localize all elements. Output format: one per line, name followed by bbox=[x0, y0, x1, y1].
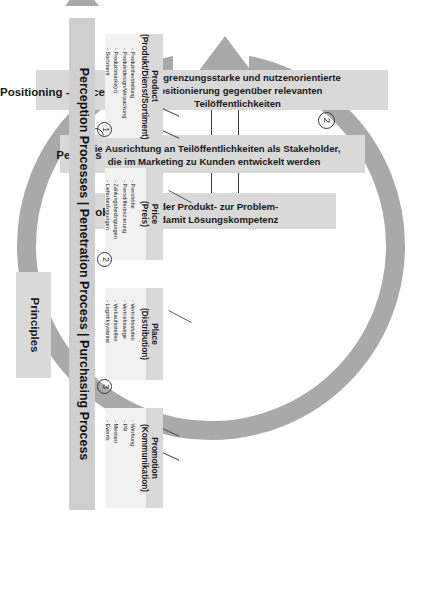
diagram-canvas: 1 2 3 Problem Von der Produkt- zur Probl… bbox=[0, 0, 425, 591]
list-item: Preishöhe bbox=[129, 180, 137, 239]
list-item: Events bbox=[103, 420, 111, 446]
mix-title-place-main: Place bbox=[150, 323, 160, 345]
mix-list-place: Vertriebsstufen Vertriebswege Verkaufsst… bbox=[103, 300, 137, 343]
mix-list-product: Produktherstellung Produktdesign/Verpack… bbox=[103, 48, 137, 118]
mix-title-place-sub: (Distribution) bbox=[140, 308, 150, 360]
stage-body-persons: Die Ausrichtung an Teilöffentlichkeiten … bbox=[87, 143, 342, 169]
list-item: Werbung bbox=[129, 420, 137, 446]
list-item: Vertriebsstufen bbox=[129, 300, 137, 343]
list-item: PR bbox=[120, 420, 128, 446]
mix-title-price: Price (Preis) bbox=[139, 168, 159, 260]
list-item: Produktherstellung bbox=[129, 48, 137, 118]
mix-title-promotion: Promotion (Kommunikation) bbox=[139, 408, 159, 508]
mix-title-product: Product (Produkt/Dienst/Sortiment) bbox=[139, 34, 159, 138]
list-item: Sortiment bbox=[103, 48, 111, 118]
leader-line-promotion-2 bbox=[163, 452, 180, 461]
mix-list-price: Preishöhe Preisdifferenzierung Zahlungsb… bbox=[103, 180, 137, 239]
process-marker-one: 1 bbox=[97, 122, 112, 137]
list-item: Verkaufsstellen bbox=[112, 300, 120, 343]
mix-title-place: Place (Distribution) bbox=[139, 288, 159, 380]
list-item: Produktdesign/Verpackung bbox=[120, 48, 128, 118]
process-bar-label: Perception Processes | Penetration Proce… bbox=[77, 18, 91, 510]
mix-title-promotion-main: Promotion bbox=[150, 437, 160, 478]
list-item: Lieferbedingungen bbox=[103, 180, 111, 239]
ring-marker-two: 2 bbox=[318, 112, 335, 129]
list-item: Messen bbox=[112, 420, 120, 446]
list-item: Logistiksysteme bbox=[103, 300, 111, 343]
principles-title: Principles bbox=[29, 272, 41, 378]
mix-list-promotion: Werbung PR Messen Events bbox=[103, 420, 137, 446]
mix-title-price-main: Price bbox=[150, 204, 160, 224]
mix-title-price-sub: (Preis) bbox=[140, 201, 150, 227]
mix-title-promotion-sub: (Kommunikation) bbox=[140, 424, 150, 492]
process-marker-three: 3 bbox=[97, 379, 112, 394]
mix-title-product-main: Product bbox=[150, 70, 160, 101]
process-bar-arrow-icon bbox=[65, 0, 99, 6]
process-marker-two: 2 bbox=[97, 252, 112, 267]
list-item: Preisdifferenzierung bbox=[120, 180, 128, 239]
list-item: Produktmarke(n) bbox=[112, 48, 120, 118]
list-item: Vertriebswege bbox=[120, 300, 128, 343]
list-item: Zahlungsbedingungen bbox=[112, 180, 120, 239]
mix-title-product-sub: (Produkt/Dienst/Sortiment) bbox=[140, 34, 150, 140]
